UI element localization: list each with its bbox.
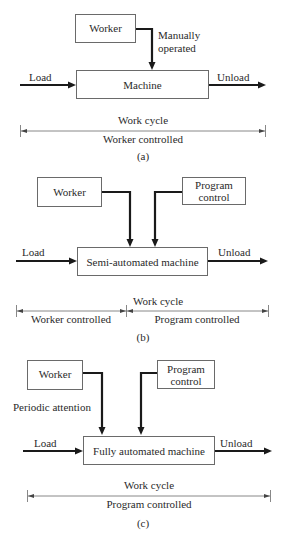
work-cycle-label-a: Work cycle bbox=[118, 114, 168, 126]
work-cycle-label-b: Work cycle bbox=[133, 295, 183, 307]
fully-automated-machine-box: Fully automated machine bbox=[84, 437, 215, 465]
machine-label-c: Fully automated machine bbox=[93, 445, 205, 457]
program-arrow-b bbox=[152, 192, 183, 247]
program-controlled-label-c: Program controlled bbox=[106, 498, 192, 510]
caption-a: (a) bbox=[137, 150, 150, 163]
semi-automated-machine-box: Semi-automated machine bbox=[78, 248, 208, 276]
machine-label-b: Semi-automated machine bbox=[86, 256, 198, 268]
worker-label-c: Worker bbox=[39, 368, 72, 380]
work-cycle-label-c: Work cycle bbox=[124, 479, 174, 491]
worker-label-b: Worker bbox=[53, 186, 86, 198]
periodic-attention-label: Periodic attention bbox=[13, 401, 91, 413]
unload-label-c: Unload bbox=[220, 437, 253, 449]
caption-b: (b) bbox=[137, 331, 150, 344]
unload-label-a: Unload bbox=[217, 71, 250, 83]
panel-b: Worker Program control Semi-automated ma… bbox=[16, 178, 269, 345]
caption-c: (c) bbox=[137, 517, 150, 530]
program-controlled-label-b: Program controlled bbox=[154, 313, 240, 325]
unload-arrow-b bbox=[208, 258, 268, 265]
panel-a: Worker Manually operated Machine Load Un… bbox=[20, 15, 266, 164]
load-label-c: Load bbox=[34, 437, 57, 449]
load-label-a: Load bbox=[29, 71, 52, 83]
machine-label-a: Machine bbox=[123, 79, 162, 91]
worker-arrow-b bbox=[102, 192, 134, 247]
manually-operated-label-line1: Manually bbox=[158, 29, 201, 41]
program-label-c-line1: Program bbox=[167, 363, 205, 375]
worker-box-b: Worker bbox=[38, 178, 102, 207]
worker-controlled-label-b: Worker controlled bbox=[31, 313, 112, 325]
manual-operation-arrow bbox=[136, 29, 156, 70]
program-control-box-b: Program control bbox=[183, 178, 246, 205]
load-arrow-b bbox=[16, 258, 77, 265]
worker-box-c: Worker bbox=[28, 361, 83, 390]
worker-label-a: Worker bbox=[89, 22, 122, 34]
program-label-b-line1: Program bbox=[195, 179, 233, 191]
manufacturing-automation-diagram: Worker Manually operated Machine Load Un… bbox=[0, 0, 286, 540]
program-control-box-c: Program control bbox=[158, 361, 215, 389]
program-label-c-line2: control bbox=[170, 375, 201, 387]
load-label-b: Load bbox=[22, 246, 45, 258]
worker-box-a: Worker bbox=[76, 15, 136, 43]
program-label-b-line2: control bbox=[198, 191, 229, 203]
machine-box-a: Machine bbox=[77, 71, 209, 99]
program-arrow-c bbox=[138, 373, 158, 435]
manually-operated-label-line2: operated bbox=[158, 42, 196, 54]
worker-controlled-label-a: Worker controlled bbox=[103, 133, 184, 145]
panel-c: Worker Program control Periodic attentio… bbox=[13, 361, 272, 531]
unload-label-b: Unload bbox=[218, 246, 251, 258]
